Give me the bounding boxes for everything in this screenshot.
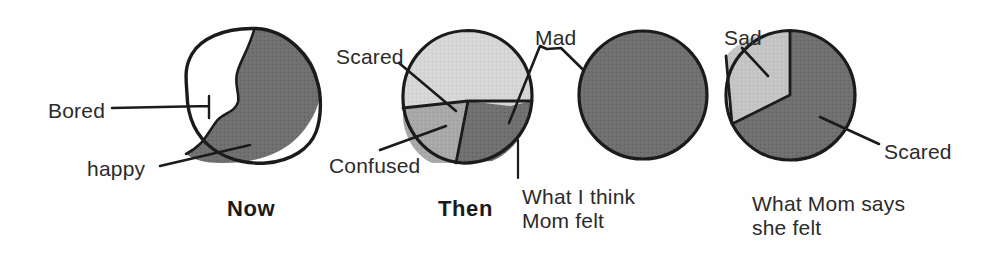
chart-caption-what-i-think-mom-felt: What I thinkMom felt bbox=[522, 185, 635, 233]
pie-chart-what-mom-says-she-felt bbox=[726, 31, 879, 161]
label-confused: Confused bbox=[329, 154, 421, 178]
pie-chart-what-i-think-mom-felt bbox=[579, 31, 707, 159]
label-mad: Mad bbox=[535, 26, 576, 50]
chart-caption-what-mom-says-she-felt: What Mom saysshe felt bbox=[752, 192, 905, 240]
label-scared-mom: Scared bbox=[884, 140, 952, 164]
pie-chart-now bbox=[112, 28, 320, 166]
pie-chart-figure: Bored happy Now Scared Confused Mad Then… bbox=[0, 0, 1002, 261]
chart-title-then: Then bbox=[438, 197, 493, 222]
label-sad: Sad bbox=[724, 26, 762, 50]
pie-slice-scared-then bbox=[403, 31, 532, 108]
chart-title-now: Now bbox=[227, 197, 275, 222]
label-scared-then: Scared bbox=[336, 45, 404, 69]
label-bored: Bored bbox=[48, 99, 105, 123]
label-happy: happy bbox=[87, 157, 145, 181]
